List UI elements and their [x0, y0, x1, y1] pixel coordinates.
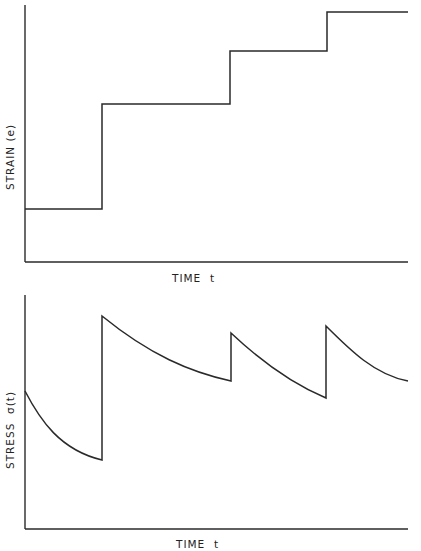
stress-relaxation-curve	[25, 316, 408, 460]
stress-strain-figure: TIME t STRAIN (e) TIME t STRESS σ(t)	[0, 0, 421, 551]
stress-y-axis-label: STRESS σ(t)	[4, 391, 16, 469]
stress-x-axis-label: TIME t	[176, 538, 219, 550]
stress-plot	[0, 0, 421, 551]
